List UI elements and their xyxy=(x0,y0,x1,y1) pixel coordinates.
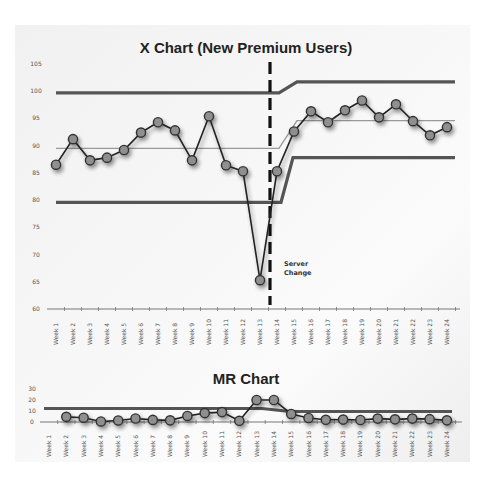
mr-data-point xyxy=(287,409,296,418)
data-point xyxy=(85,156,94,165)
data-point xyxy=(119,145,128,154)
x-tick-label: Week 21 xyxy=(392,319,399,345)
x-tick-label: Week 18 xyxy=(341,319,348,345)
mr-x-tick-label: Week 20 xyxy=(374,431,381,457)
mr-data-point xyxy=(390,415,399,424)
server-change-label-line1: Server xyxy=(284,260,309,268)
mr-x-tick-label: Week 24 xyxy=(443,431,450,457)
x-chart: X Chart (New Premium Users) 606570758085… xyxy=(0,0,493,489)
mr-data-point xyxy=(200,408,209,417)
mr-x-tick-label: Week 14 xyxy=(270,431,277,457)
x-tick-label: Week 12 xyxy=(239,319,246,345)
mr-x-tick-label: Week 5 xyxy=(114,435,121,457)
mr-x-tick-label: Week 8 xyxy=(166,435,173,457)
mr-data-point xyxy=(408,414,417,423)
mr-x-tick-label: Week 18 xyxy=(339,431,346,457)
x-tick-label: Week 4 xyxy=(103,323,110,345)
x-tick-label: Week 3 xyxy=(86,323,93,345)
mr-data-point xyxy=(217,408,226,417)
x-tick-label: Week 19 xyxy=(358,319,365,345)
mr-x-tick-label: Week 15 xyxy=(287,431,294,457)
x-tick-label: Week 5 xyxy=(120,323,127,345)
data-point xyxy=(170,126,179,135)
mr-x-tick-label: Week 12 xyxy=(235,431,242,457)
x-chart-title: X Chart (New Premium Users) xyxy=(140,39,353,56)
mr-data-point xyxy=(425,415,434,424)
ucl-line xyxy=(56,82,455,93)
x-tick-label: Week 10 xyxy=(205,319,212,345)
mr-data-point xyxy=(62,412,71,421)
data-point xyxy=(187,156,196,165)
x-tick-label: Week 6 xyxy=(137,323,144,345)
y-tick-label: 70 xyxy=(32,251,40,258)
x-tick-label: Week 24 xyxy=(443,319,450,345)
mr-x-tick-label: Week 2 xyxy=(62,435,69,457)
data-point xyxy=(391,100,400,109)
lcl-line xyxy=(56,158,455,203)
x-tick-label: Week 14 xyxy=(273,319,280,345)
x-tick-label: Week 8 xyxy=(171,323,178,345)
mr-data-point xyxy=(114,416,123,425)
mr-y-tick-label: 0 xyxy=(30,418,34,425)
data-point xyxy=(323,118,332,127)
mr-x-tick-label: Week 9 xyxy=(183,435,190,457)
mr-x-tick-label: Week 22 xyxy=(408,431,415,457)
y-tick-label: 85 xyxy=(32,169,40,176)
mr-data-point xyxy=(148,415,157,424)
mr-data-point xyxy=(269,395,278,404)
mr-data-point xyxy=(356,415,365,424)
x-tick-label: Week 15 xyxy=(290,319,297,345)
data-point xyxy=(68,135,77,144)
data-point xyxy=(204,112,213,121)
x-tick-label: Week 13 xyxy=(256,319,263,345)
x-tick-label: Week 1 xyxy=(52,323,59,345)
data-point xyxy=(340,106,349,115)
x-tick-label: Week 17 xyxy=(324,319,331,345)
mr-data-point xyxy=(183,411,192,420)
x-tick-label: Week 11 xyxy=(222,319,229,345)
mr-x-tick-label: Week 6 xyxy=(132,435,139,457)
mr-data-point xyxy=(252,395,261,404)
mr-x-tick-label: Week 7 xyxy=(149,435,156,457)
y-tick-label: 90 xyxy=(32,142,40,149)
mr-data-point xyxy=(235,416,244,425)
mr-data-point xyxy=(131,414,140,423)
y-tick-label: 80 xyxy=(32,196,40,203)
center-line xyxy=(56,121,455,149)
mr-data-point xyxy=(321,415,330,424)
x-chart-x-axis: Week 1Week 2Week 3Week 4Week 5Week 6Week… xyxy=(47,307,460,345)
mr-x-tick-label: Week 3 xyxy=(80,435,87,457)
y-tick-label: 65 xyxy=(32,278,40,285)
data-point xyxy=(255,276,264,285)
x-chart-y-axis: 6065707580859095100105 xyxy=(30,60,42,312)
y-tick-label: 60 xyxy=(32,305,40,312)
data-point xyxy=(102,153,111,162)
data-point xyxy=(153,118,162,127)
mr-x-tick-label: Week 21 xyxy=(391,431,398,457)
mr-data-point xyxy=(304,413,313,422)
y-tick-label: 95 xyxy=(32,114,40,121)
mr-x-tick-label: Week 16 xyxy=(305,431,312,457)
mr-x-tick-label: Week 1 xyxy=(45,435,52,457)
mr-x-tick-label: Week 4 xyxy=(97,435,104,457)
mr-x-tick-label: Week 17 xyxy=(322,431,329,457)
mr-data-point xyxy=(166,416,175,425)
data-point xyxy=(442,123,451,132)
mr-y-tick-label: 20 xyxy=(28,396,36,403)
server-change-label-line2: Change xyxy=(284,269,312,277)
mr-data-point xyxy=(79,413,88,422)
data-point xyxy=(136,128,145,137)
mr-data-point xyxy=(373,414,382,423)
data-point xyxy=(51,160,60,169)
x-tick-label: Week 22 xyxy=(409,319,416,345)
data-point xyxy=(238,167,247,176)
x-tick-label: Week 20 xyxy=(375,319,382,345)
data-point xyxy=(272,167,281,176)
mr-x-tick-label: Week 11 xyxy=(218,431,225,457)
data-point xyxy=(374,113,383,122)
data-point xyxy=(408,117,417,126)
mr-x-tick-label: Week 10 xyxy=(201,431,208,457)
data-point xyxy=(357,96,366,105)
data-point xyxy=(289,127,298,136)
x-tick-label: Week 7 xyxy=(154,323,161,345)
